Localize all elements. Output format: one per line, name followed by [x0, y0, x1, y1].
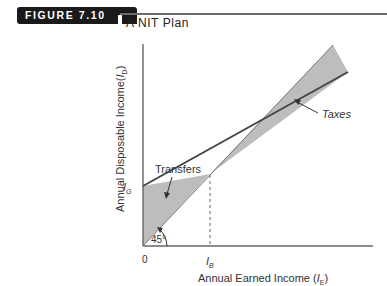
y-axis-label: Annual Disposable Income(ID): [114, 66, 128, 212]
angle-label: 45°: [151, 234, 166, 245]
forty-five-degree-line: [143, 45, 333, 246]
ib-tick-label: IB: [206, 255, 214, 269]
taxes-label: Taxes: [322, 108, 351, 120]
transfers-label: Transfers: [155, 163, 202, 175]
taxes-arrow: [297, 102, 318, 113]
nit-diagram: Transfers Taxes 45° IG 0 IB Annual Earne…: [0, 0, 387, 286]
origin-label: 0: [142, 254, 148, 265]
x-axis-label: Annual Earned Income (IE): [198, 272, 328, 286]
